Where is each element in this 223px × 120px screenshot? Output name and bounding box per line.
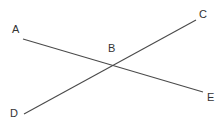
point-label-e: E: [207, 91, 214, 103]
diagram-canvas: A B C D E: [0, 0, 223, 120]
point-label-b: B: [108, 42, 115, 54]
point-label-a: A: [12, 23, 20, 35]
diagram-svg: A B C D E: [0, 0, 223, 120]
point-label-c: C: [199, 8, 207, 20]
point-label-d: D: [10, 107, 18, 119]
line-segment-dc: [24, 20, 196, 114]
